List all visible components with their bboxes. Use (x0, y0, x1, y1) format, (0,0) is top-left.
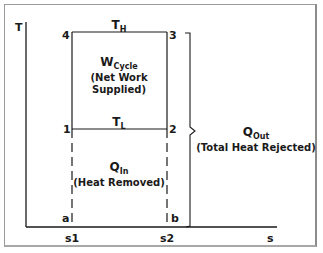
point-2-label: 2 (169, 124, 177, 135)
work-cycle-label: WCycle (Net Work Supplied) (90, 51, 147, 96)
s1-tick-label: s1 (65, 233, 79, 244)
work-desc-line2: Supplied) (90, 84, 147, 96)
heat-in-sub: In (120, 167, 129, 176)
work-main: W (100, 55, 113, 69)
t-axis-label: T (15, 22, 23, 33)
work-desc-line1: (Net Work (90, 72, 147, 84)
t-low-main: T (112, 115, 120, 129)
heat-in-desc: (Heat Removed) (73, 177, 165, 189)
point-3-label: 3 (169, 30, 177, 41)
heat-out-sub: Out (253, 132, 269, 141)
point-4-label: 4 (62, 30, 70, 41)
heat-out-label: QOut (Total Heat Rejected) (196, 121, 315, 154)
s-axis-label: s (267, 233, 274, 244)
point-b-label: b (171, 213, 179, 224)
work-sub: Cycle (114, 62, 138, 71)
t-low-sub: L (121, 122, 126, 131)
point-1-label: 1 (63, 124, 71, 135)
point-a-label: a (62, 213, 69, 224)
t-high-label: TH (112, 14, 127, 33)
heat-out-main: Q (243, 125, 253, 139)
t-high-main: T (112, 18, 120, 32)
heat-in-label: QIn (Heat Removed) (73, 156, 165, 189)
q-out-brace (185, 33, 195, 227)
heat-out-desc: (Total Heat Rejected) (196, 142, 315, 154)
t-high-sub: H (120, 25, 127, 34)
t-low-label: TL (112, 111, 125, 130)
heat-in-main: Q (110, 160, 120, 174)
s2-tick-label: s2 (160, 233, 174, 244)
